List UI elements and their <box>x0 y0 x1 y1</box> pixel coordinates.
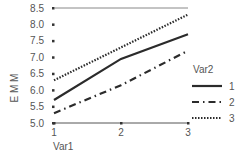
y-tick-mark <box>52 89 55 92</box>
series-line-3 <box>54 15 188 81</box>
y-tick-label: 7.0 <box>30 52 44 63</box>
x-tick-label: 1 <box>51 127 57 138</box>
legend-label-1: 1 <box>229 81 235 92</box>
y-tick-mark <box>52 23 55 26</box>
series-lines <box>54 15 188 114</box>
y-tick-label: 8.5 <box>30 3 44 14</box>
y-tick-label: 7.5 <box>30 35 44 46</box>
y-tick-label: 5.0 <box>30 118 44 129</box>
legend-label-2: 2 <box>229 97 235 108</box>
y-tick-mark <box>52 40 55 43</box>
x-tick-mark <box>53 122 56 125</box>
x-axis-ticks: 123 <box>51 122 191 138</box>
y-axis-ticks: 5.05.56.06.57.07.58.08.5 <box>30 3 54 129</box>
y-tick-label: 5.5 <box>30 101 44 112</box>
interaction-line-chart: E M M 5.05.56.06.57.07.58.08.5 123 Var1 … <box>0 0 247 162</box>
y-tick-mark <box>52 73 55 76</box>
x-tick-mark <box>120 122 123 125</box>
y-tick-label: 6.5 <box>30 68 44 79</box>
series-line-1 <box>54 34 188 100</box>
y-tick-label: 6.0 <box>30 85 44 96</box>
legend: Var2 123 <box>192 64 235 124</box>
x-axis-title: Var1 <box>53 141 74 152</box>
legend-label-3: 3 <box>229 113 235 124</box>
x-tick-label: 3 <box>185 127 191 138</box>
y-tick-label: 8.0 <box>30 19 44 30</box>
y-tick-mark <box>52 106 55 109</box>
legend-title: Var2 <box>193 64 214 75</box>
y-tick-mark <box>52 56 55 59</box>
y-axis-title: E M M <box>9 74 20 103</box>
x-tick-mark <box>187 122 190 125</box>
x-tick-label: 2 <box>118 127 124 138</box>
